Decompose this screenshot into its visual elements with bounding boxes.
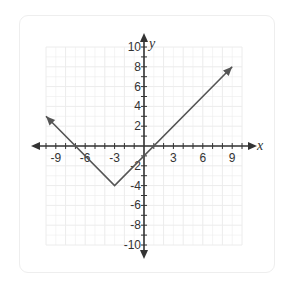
y-tick-label: 8 [134,60,141,74]
x-axis-label: x [256,138,264,153]
y-axis-up-arrow-icon [140,33,148,42]
y-axis-down-arrow-icon [140,250,148,259]
y-tick-label: 4 [134,99,141,113]
y-tick-label: 6 [134,80,141,94]
y-axis-label: y [147,36,156,51]
y-tick-label: -10 [124,238,142,252]
x-tick-label: 6 [199,151,206,165]
coordinate-plane: -9-6-3369108642-2-4-6-8-10 x y [0,0,292,283]
y-tick-label: -8 [130,218,141,232]
x-axis-right-arrow-icon [248,142,257,150]
y-tick-label: 10 [128,40,142,54]
y-tick-label: -6 [130,198,141,212]
y-tick-label: -4 [130,179,141,193]
x-tick-label: 3 [170,151,177,165]
x-axis-left-arrow-icon [31,142,40,150]
x-tick-label: -9 [50,151,61,165]
x-tick-label: 9 [229,151,236,165]
x-tick-label: -3 [109,151,120,165]
y-tick-label: 2 [134,119,141,133]
